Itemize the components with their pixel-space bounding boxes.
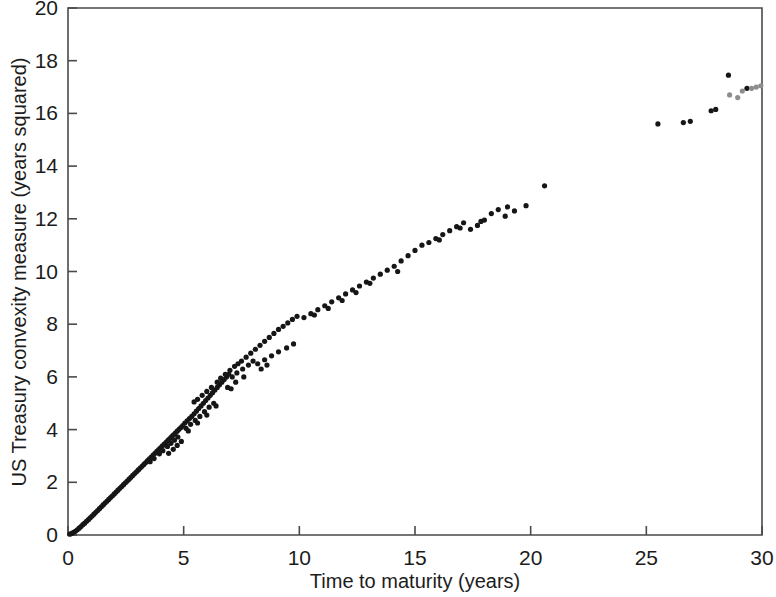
- data-point: [267, 335, 272, 340]
- data-point: [447, 228, 452, 233]
- data-point: [496, 207, 501, 212]
- x-tick-label-15: 15: [403, 546, 426, 569]
- data-point: [248, 351, 253, 356]
- y-tick-label-12: 12: [35, 207, 58, 230]
- x-tick-label-25: 25: [635, 546, 658, 569]
- data-point: [340, 298, 345, 303]
- data-point: [175, 443, 180, 448]
- data-point: [175, 434, 180, 439]
- data-point: [241, 374, 246, 379]
- data-point: [709, 108, 714, 113]
- data-point: [326, 306, 331, 311]
- data-point: [655, 121, 660, 126]
- data-point: [262, 357, 267, 362]
- data-point: [468, 227, 473, 232]
- x-tick-label-30: 30: [750, 546, 773, 569]
- data-point: [160, 448, 165, 453]
- data-point: [228, 386, 233, 391]
- data-point: [392, 264, 397, 269]
- data-point: [179, 439, 184, 444]
- data-point: [475, 223, 480, 228]
- y-tick-label-0: 0: [46, 523, 58, 546]
- data-point: [233, 380, 238, 385]
- data-point: [523, 203, 528, 208]
- data-point: [209, 385, 214, 390]
- chart-canvas: 051015202530 02468101214161820 Time to m…: [0, 0, 776, 597]
- data-point: [255, 361, 260, 366]
- data-point: [188, 422, 193, 427]
- data-point: [727, 92, 732, 97]
- data-point: [200, 393, 205, 398]
- data-point: [166, 451, 171, 456]
- data-point: [378, 272, 383, 277]
- data-point: [542, 183, 547, 188]
- data-point: [371, 275, 376, 280]
- data-point: [230, 374, 235, 379]
- data-point: [204, 389, 209, 394]
- x-tick-label-10: 10: [288, 546, 311, 569]
- y-tick-label-10: 10: [35, 260, 58, 283]
- data-point: [197, 414, 202, 419]
- data-point: [240, 366, 245, 371]
- data-point: [478, 219, 483, 224]
- data-point: [186, 428, 191, 433]
- data-point: [512, 208, 517, 213]
- data-point: [758, 83, 763, 88]
- data-point: [419, 243, 424, 248]
- data-point: [294, 314, 299, 319]
- data-point: [246, 362, 251, 367]
- data-point: [264, 362, 269, 367]
- data-point: [412, 248, 417, 253]
- data-point: [503, 214, 508, 219]
- data-point: [234, 370, 239, 375]
- x-tick-label-20: 20: [519, 546, 542, 569]
- data-point: [218, 376, 223, 381]
- y-tick-label-4: 4: [46, 418, 58, 441]
- data-point: [215, 380, 220, 385]
- data-point: [458, 225, 463, 230]
- y-tick-label-8: 8: [46, 312, 58, 335]
- data-point: [285, 320, 290, 325]
- data-point: [367, 281, 372, 286]
- data-point: [681, 120, 686, 125]
- data-point: [281, 324, 286, 329]
- data-point: [291, 341, 296, 346]
- data-point: [253, 347, 258, 352]
- y-tick-label-20: 20: [35, 0, 58, 19]
- data-point: [290, 317, 295, 322]
- scatter-chart-figure: 051015202530 02468101214161820 Time to m…: [0, 0, 776, 597]
- data-point: [399, 258, 404, 263]
- data-point: [754, 84, 759, 89]
- data-point: [151, 456, 156, 461]
- data-point: [437, 237, 442, 242]
- data-point: [713, 107, 718, 112]
- data-point: [195, 420, 200, 425]
- data-point: [353, 290, 358, 295]
- data-point: [315, 307, 320, 312]
- data-point: [262, 339, 267, 344]
- y-tick-label-2: 2: [46, 470, 58, 493]
- x-tick-label-5: 5: [178, 546, 190, 569]
- data-point: [250, 358, 255, 363]
- data-point: [426, 240, 431, 245]
- y-tick-label-16: 16: [35, 101, 58, 124]
- data-point: [395, 269, 400, 274]
- data-point: [329, 299, 334, 304]
- data-point: [735, 95, 740, 100]
- data-point: [259, 366, 264, 371]
- data-point: [213, 403, 218, 408]
- data-point: [301, 315, 306, 320]
- data-point: [207, 405, 212, 410]
- data-point: [227, 368, 232, 373]
- x-axis-title: Time to maturity (years): [310, 570, 520, 592]
- data-point: [688, 119, 693, 124]
- data-point: [489, 211, 494, 216]
- data-point: [171, 447, 176, 452]
- data-point: [726, 73, 731, 78]
- data-point: [269, 353, 274, 358]
- data-point: [740, 88, 745, 93]
- y-tick-label-18: 18: [35, 49, 58, 72]
- x-tick-label-0: 0: [62, 546, 74, 569]
- data-point: [357, 283, 362, 288]
- data-point: [385, 268, 390, 273]
